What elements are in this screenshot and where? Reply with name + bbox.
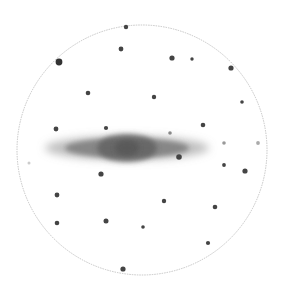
star (124, 25, 128, 29)
star (201, 123, 206, 128)
star (162, 199, 166, 203)
star (213, 205, 218, 210)
star (240, 100, 244, 104)
star (55, 193, 60, 198)
star (104, 219, 109, 224)
star (242, 168, 247, 173)
star (190, 57, 193, 60)
star (228, 65, 233, 70)
star (104, 126, 108, 130)
star (176, 154, 182, 160)
star (256, 141, 260, 145)
star (169, 55, 174, 60)
star (152, 95, 156, 99)
star (222, 141, 226, 145)
star (168, 131, 172, 135)
star (206, 241, 210, 245)
star (120, 266, 125, 271)
eyepiece-sketch (0, 0, 284, 293)
galaxy-core (115, 140, 139, 156)
star (55, 221, 60, 226)
star (141, 225, 145, 229)
star (86, 91, 91, 96)
star (222, 163, 226, 167)
star (98, 171, 103, 176)
star (119, 47, 124, 52)
star (56, 59, 63, 66)
star (54, 127, 59, 132)
star (28, 162, 31, 165)
